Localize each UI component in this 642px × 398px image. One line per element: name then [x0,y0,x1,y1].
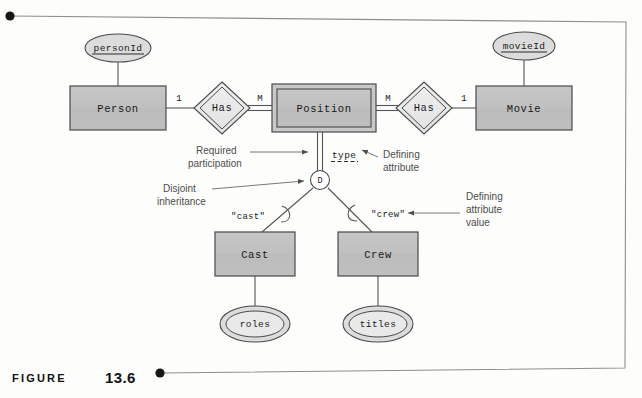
attribute-roles-label: roles [240,319,271,330]
disjoint-specialization-label: D [317,176,322,186]
cardinality-position-has: M [385,94,391,104]
cardinality-has-position: M [257,94,263,104]
figure-caption: FIGURE 13.6 [12,369,136,386]
disjoint-specialization-circle[interactable]: D [311,171,330,190]
annotation-defining-attribute-value-line3: value [466,217,490,228]
annotation-defining-attribute-value-line2: attribute [466,204,503,215]
annotation-required-participation: Required participation [188,145,242,169]
entity-movie-label: Movie [507,103,542,115]
annotation-disjoint-inheritance-line1: Disjoint [163,183,196,194]
entity-person-label: Person [97,103,138,115]
relationship-has-right-label: Has [414,102,435,114]
annotation-defining-attribute: Defining attribute [383,149,420,173]
annotation-disjoint-inheritance-line2: inheritance [157,196,206,207]
attribute-personid-label: personId [94,43,143,54]
entity-crew[interactable]: Crew [338,232,418,276]
figure-container: Person Position Movie Cast Crew Has [0,0,642,398]
defining-value-cast: "cast" [231,212,265,222]
page-frame [5,11,626,377]
frame-dot-bottom [155,368,164,377]
defining-value-crew: "crew" [371,210,405,220]
annotation-required-participation-line1: Required [196,145,237,156]
annotation-defining-attribute-value: Defining attribute value [466,191,503,228]
annotation-required-participation-line2: participation [188,158,242,169]
cardinality-has-movie: 1 [461,94,467,104]
annotation-defining-attribute-line2: attribute [383,162,420,173]
annotation-disjoint-inheritance: Disjoint inheritance [157,183,206,207]
cardinality-person-has: 1 [176,94,182,104]
figure-caption-word: FIGURE [12,372,67,384]
attribute-personid[interactable]: personId [85,34,151,62]
attribute-type-label: type [332,150,356,161]
entity-person[interactable]: Person [70,86,166,130]
er-diagram-canvas: Person Position Movie Cast Crew Has [0,0,642,398]
frame-dot-top-left [5,11,14,20]
annotation-defining-attribute-value-line1: Defining [466,191,503,202]
annotation-defining-attribute-line1: Defining [383,149,420,160]
entity-cast[interactable]: Cast [215,232,295,276]
figure-caption-number: 13.6 [105,369,136,386]
attribute-titles-label: titles [360,319,397,330]
line-d-crew [328,188,372,232]
attribute-movieid[interactable]: movieId [493,32,555,60]
relationship-has-right[interactable]: Has [396,82,452,134]
relationship-has-left-label: Has [212,102,233,114]
entity-cast-label: Cast [241,249,269,261]
relationship-has-left[interactable]: Has [194,82,250,134]
attribute-movieid-label: movieId [503,41,546,52]
entity-position-label: Position [296,103,351,115]
attribute-roles[interactable]: roles [220,306,290,342]
attribute-type[interactable]: type [331,150,358,162]
attribute-titles[interactable]: titles [343,306,413,342]
leader-defining-attribute [362,150,378,157]
entity-position[interactable]: Position [272,84,376,132]
entity-crew-label: Crew [364,249,392,261]
leader-disjoint-inheritance [212,181,304,189]
entity-movie[interactable]: Movie [476,86,572,130]
